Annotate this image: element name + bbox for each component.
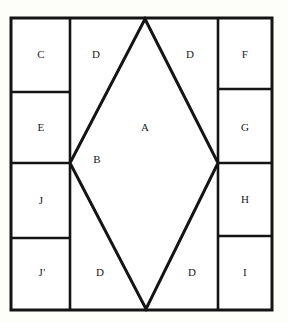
geometry-diagram: A B C E J J' F G H I D D D D xyxy=(0,0,288,322)
region-label-c: C xyxy=(37,48,45,60)
region-label-f: F xyxy=(242,48,248,60)
region-label-j: J xyxy=(39,194,44,206)
region-label-d-bottom-left: D xyxy=(96,266,104,278)
region-label-j-prime: J' xyxy=(39,266,46,278)
region-label-d-top-right: D xyxy=(186,48,194,60)
region-label-b: B xyxy=(93,153,101,165)
region-label-e: E xyxy=(37,121,44,133)
region-label-i: I xyxy=(243,266,247,278)
region-label-a: A xyxy=(141,121,149,133)
region-label-d-top-left: D xyxy=(92,48,100,60)
region-label-d-bottom-right: D xyxy=(188,266,196,278)
region-label-g: G xyxy=(241,121,249,133)
region-label-h: H xyxy=(241,193,249,205)
diagram-root: A B C E J J' F G H I D D D D xyxy=(0,0,288,322)
